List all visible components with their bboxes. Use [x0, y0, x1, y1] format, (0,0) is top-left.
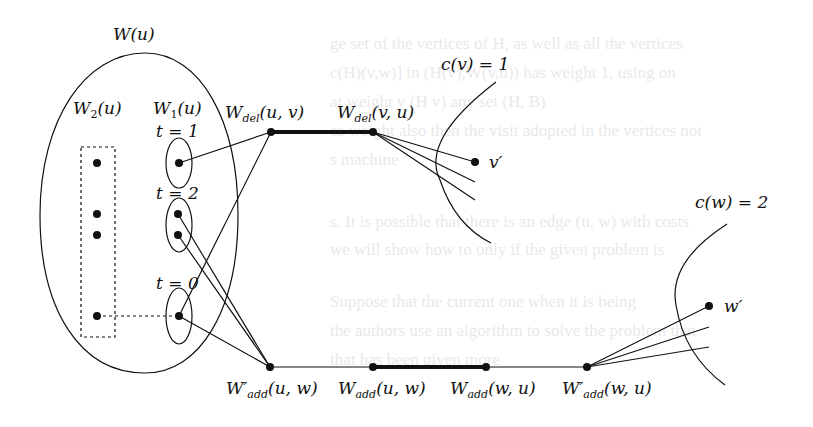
label-t1: t = 1: [156, 123, 199, 140]
node-Wpadd-wu: [583, 363, 591, 371]
node-t0: [175, 312, 183, 320]
node-W2-4: [93, 312, 101, 320]
node-w-prime: [705, 302, 713, 310]
group-W2-u-box: [81, 147, 115, 337]
label-W2-u: W2(u): [73, 100, 122, 120]
cluster-c-v-arc: [436, 82, 496, 243]
label-c-w: c(w) = 2: [695, 194, 768, 211]
node-W2-3: [93, 231, 101, 239]
node-v-prime: [471, 158, 479, 166]
label-Wadd-wu: Wadd(w, u): [450, 380, 536, 400]
edge: [587, 306, 709, 367]
label-Wadd-uw: Wadd(u, w): [338, 380, 426, 400]
label-t2: t = 2: [156, 185, 199, 202]
label-W1-u: W1(u): [153, 100, 202, 120]
label-Wdel-uv: Wdel(u, v): [225, 104, 304, 124]
node-Wpadd-uw: [266, 363, 274, 371]
label-Wpadd-uw: W′add(u, w): [226, 380, 318, 400]
time-group-t2: [166, 198, 192, 252]
label-w-prime: w′: [724, 298, 742, 315]
edge: [373, 132, 475, 200]
node-W2-1: [93, 159, 101, 167]
node-Wadd-uw: [369, 363, 377, 371]
node-W2-2: [93, 210, 101, 218]
edge: [587, 347, 709, 367]
diagram-canvas: [0, 0, 813, 427]
label-t0: t = 0: [156, 275, 199, 292]
label-W-u: W(u): [113, 26, 155, 43]
node-t2-a: [174, 210, 182, 218]
group-W-u-outline: [40, 53, 238, 373]
edge: [179, 316, 270, 367]
node-Wadd-wu: [482, 363, 490, 371]
node-Wdel-vu: [369, 128, 377, 136]
node-t2-b: [174, 231, 182, 239]
label-c-v: c(v) = 1: [441, 56, 509, 73]
label-v-prime: v′: [489, 154, 502, 171]
node-t1: [175, 159, 183, 167]
edge: [178, 235, 270, 367]
cluster-c-w-arc: [675, 224, 727, 385]
label-Wpadd-wu: W′add(w, u): [562, 380, 652, 400]
node-Wdel-uv: [267, 128, 275, 136]
label-Wdel-vu: Wdel(v, u): [337, 104, 414, 124]
